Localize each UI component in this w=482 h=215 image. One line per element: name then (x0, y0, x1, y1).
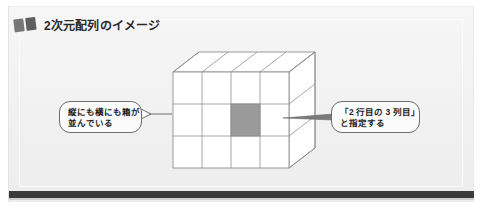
book-blocks-icon-right (25, 16, 37, 30)
book-blocks-icon-left (13, 18, 25, 32)
callout-rows-and-columns: 縦にも横にも箱が 並んでいる (59, 101, 142, 133)
bottom-rule-shadow (9, 198, 474, 200)
figure-title-row: 2次元配列のイメージ (14, 16, 161, 33)
figure-title: 2次元配列のイメージ (44, 16, 161, 33)
bottom-rule (9, 191, 474, 198)
callout-left-line-1: 縦にも横にも箱が (68, 107, 134, 118)
callout-right-line-1: 「2 行目の 3 列目」 (340, 107, 412, 118)
callout-right-pointer (283, 112, 335, 128)
book-blocks-icon (13, 16, 39, 33)
callout-cell-address: 「2 行目の 3 列目」 と指定する (331, 101, 420, 133)
figure-page: 2次元配列のイメージ (0, 0, 482, 215)
callout-right-line-2: と指定する (340, 118, 412, 129)
callout-left-line-2: 並んでいる (68, 118, 134, 129)
highlighted-cell-r2c3 (231, 104, 260, 136)
callout-left-pointer (139, 108, 173, 126)
